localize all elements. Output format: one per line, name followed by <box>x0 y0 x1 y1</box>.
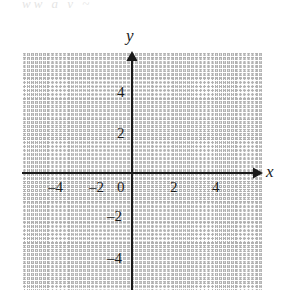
axes <box>22 52 262 290</box>
y-tick-label-neg2: –2 <box>107 209 122 224</box>
y-axis-arrowhead <box>126 51 137 61</box>
page-bleed-text: ww a y ~ <box>22 0 172 8</box>
x-tick-label-neg2: –2 <box>89 180 104 195</box>
y-tick-label-4: 4 <box>117 85 125 100</box>
y-tick-label-2: 2 <box>117 126 125 141</box>
x-tick-label-2: 2 <box>170 180 178 195</box>
y-axis-label: y <box>126 26 134 46</box>
origin-label: 0 <box>117 180 125 195</box>
x-tick-label-4: 4 <box>212 180 220 195</box>
x-tick-label-neg4: –4 <box>48 180 63 195</box>
coordinate-plane: x y –4 –2 0 2 4 4 2 –2 –4 <box>22 52 262 290</box>
x-axis-arrowhead <box>253 167 263 178</box>
y-tick-label-neg4: –4 <box>107 251 122 266</box>
x-axis-label: x <box>266 162 274 182</box>
